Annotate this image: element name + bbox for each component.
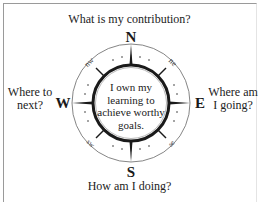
question-north: What is my contribution? <box>0 13 259 26</box>
southeast-label: se <box>167 139 177 149</box>
east-label: E <box>195 95 205 111</box>
southwest-label: sw <box>85 138 97 150</box>
center-statement: I own my learning to achieve worthy goal… <box>96 81 166 131</box>
question-east: Where am I going? <box>206 86 259 112</box>
west-label: W <box>56 95 71 111</box>
question-south: How am I doing? <box>0 180 259 193</box>
north-label: N <box>126 29 137 45</box>
question-west: Where to next? <box>4 86 56 112</box>
south-label: S <box>127 164 135 180</box>
